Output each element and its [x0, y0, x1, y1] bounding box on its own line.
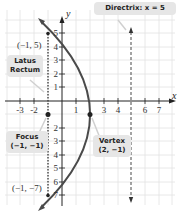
svg-text:3: 3 [102, 105, 107, 115]
latus-rectum-label-line2: Rectum [10, 66, 40, 75]
parabola-diagram: y x -3 -2 1 3 4 6 7 5 4 3 2 1 2 3 4 5 6 … [0, 0, 182, 213]
svg-text:1: 1 [74, 105, 79, 115]
svg-text:4: 4 [116, 105, 121, 115]
svg-text:4: 4 [54, 150, 59, 160]
directrix-label: Directrix: x = 5 [105, 4, 165, 12]
svg-text:3: 3 [54, 136, 59, 146]
svg-text:7: 7 [157, 105, 162, 115]
vertex-callout: Vertex (2, −1) [93, 135, 131, 157]
svg-text:-3: -3 [16, 105, 24, 115]
focus-label-line2: (−1, −1) [9, 142, 45, 151]
focus-point [46, 112, 51, 117]
svg-text:6: 6 [54, 177, 59, 187]
svg-text:7: 7 [54, 190, 59, 200]
svg-text:5: 5 [54, 28, 59, 38]
vertex-label-line1: Vertex [96, 137, 128, 146]
latus-rectum-label-line1: Latus [10, 57, 40, 66]
top-endpoint-label: (−1, 5) [17, 40, 42, 50]
latus-rectum-callout: Latus Rectum [7, 55, 43, 77]
focus-callout: Focus (−1, −1) [6, 131, 48, 153]
latus-bottom-point [46, 194, 50, 198]
vertex-point [88, 112, 93, 117]
bottom-endpoint-label: (−1, −7) [12, 183, 42, 193]
directrix-line [129, 27, 133, 203]
svg-text:-2: -2 [30, 105, 38, 115]
svg-text:4: 4 [54, 42, 59, 52]
leader-lines [30, 20, 126, 138]
svg-text:2: 2 [54, 123, 59, 133]
svg-text:5: 5 [54, 163, 59, 173]
directrix-callout: Directrix: x = 5 [94, 2, 176, 15]
svg-text:1: 1 [54, 82, 59, 92]
svg-text:2: 2 [54, 69, 59, 79]
latus-top-point [46, 32, 50, 36]
svg-text:3: 3 [54, 55, 59, 65]
x-axis [5, 98, 176, 104]
svg-text:6: 6 [143, 105, 148, 115]
x-axis-label: x [171, 90, 177, 101]
y-axis-label: y [65, 8, 71, 19]
focus-label-line1: Focus [9, 133, 45, 142]
vertex-label-line2: (2, −1) [96, 146, 128, 155]
